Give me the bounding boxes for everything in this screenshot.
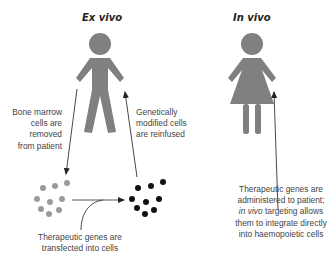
label-line: modified cells [136,118,216,129]
label-text: targeting allows [263,206,324,216]
label-line: transfected into cells [30,243,130,254]
label-line: Therapeutic genes are [30,232,130,243]
bone-marrow-removed-label: Bone marrow cells are removed from patie… [2,107,62,152]
label-line: Therapeutic genes are [228,184,334,195]
reinfused-label: Genetically modified cells are reinfused [136,107,216,141]
administered-label: Therapeutic genes are administered to pa… [228,184,334,240]
label-line: them to integrate directly [228,218,334,229]
modified-cells [129,179,166,217]
removal-arrow [66,89,77,174]
in-vivo-title: In vivo [233,12,271,23]
ex-vivo-title: Ex vivo [82,12,122,23]
label-line: in vivo targeting allows [228,206,334,217]
label-line: Genetically [136,107,216,118]
label-line: are reinfused [136,129,216,140]
untreated-cells [34,180,70,217]
label-line: administered to patient; [228,195,334,206]
female-person-icon [228,33,276,134]
transfected-label: Therapeutic genes are transfected into c… [30,232,130,254]
in-vivo-italic: in vivo [239,206,263,216]
label-line: into haemopoietic cells [228,229,334,240]
label-line: removed [2,129,62,140]
label-line: cells are [2,118,62,129]
transfection-leader-line [81,200,103,230]
label-line: from patient [2,141,62,152]
label-line: Bone marrow [2,107,62,118]
male-person-icon [76,33,124,133]
